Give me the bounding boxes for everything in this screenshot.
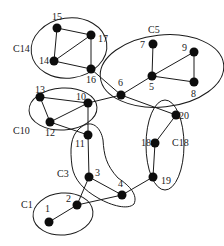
cluster-label-c5: C5 bbox=[148, 24, 160, 35]
node-label-19: 19 bbox=[161, 175, 171, 186]
node-label-12: 12 bbox=[45, 127, 55, 138]
edge-11-3 bbox=[88, 135, 89, 177]
node-9 bbox=[190, 48, 199, 57]
node-label-17: 17 bbox=[98, 33, 108, 44]
node-label-3: 3 bbox=[95, 167, 100, 178]
node-3 bbox=[85, 173, 94, 182]
node-11 bbox=[84, 131, 93, 140]
node-14 bbox=[50, 57, 59, 66]
node-2 bbox=[73, 201, 82, 210]
edge-5-9 bbox=[152, 52, 194, 76]
node-12 bbox=[46, 118, 55, 127]
edge-15-14 bbox=[54, 28, 57, 61]
cluster-label-c3: C3 bbox=[57, 168, 69, 179]
node-label-1: 1 bbox=[45, 203, 50, 214]
edge-12-10 bbox=[50, 103, 88, 122]
edge-2-1 bbox=[49, 205, 77, 222]
cluster-label-c10: C10 bbox=[13, 125, 30, 136]
edge-15-17 bbox=[57, 28, 91, 35]
cluster-label-c14: C14 bbox=[13, 43, 30, 54]
edge-4-19 bbox=[122, 177, 153, 195]
node-8 bbox=[190, 78, 199, 87]
node-label-11: 11 bbox=[75, 138, 85, 149]
node-5 bbox=[148, 72, 157, 81]
node-label-6: 6 bbox=[118, 77, 123, 88]
node-label-10: 10 bbox=[76, 91, 86, 102]
node-label-14: 14 bbox=[39, 55, 49, 66]
node-7 bbox=[149, 40, 158, 49]
cluster-label-c1: C1 bbox=[21, 199, 33, 210]
graph-diagram: 1234567891011121314151617181920 C14C5C10… bbox=[0, 0, 224, 246]
node-label-4: 4 bbox=[118, 178, 123, 189]
edge-14-16 bbox=[54, 61, 91, 69]
edge-14-17 bbox=[54, 35, 91, 61]
edge-18-19 bbox=[153, 143, 155, 177]
edge-6-20 bbox=[121, 95, 176, 115]
node-label-13: 13 bbox=[35, 84, 45, 95]
edge-7-5 bbox=[152, 44, 153, 76]
node-label-9: 9 bbox=[182, 42, 187, 53]
edge-2-4 bbox=[77, 195, 122, 205]
edge-12-11 bbox=[50, 122, 88, 135]
node-19 bbox=[149, 173, 158, 182]
node-16 bbox=[87, 65, 96, 74]
node-4 bbox=[118, 191, 127, 200]
node-label-16: 16 bbox=[86, 74, 96, 85]
edge-5-6 bbox=[121, 76, 152, 95]
node-label-7: 7 bbox=[140, 39, 145, 50]
node-1 bbox=[45, 218, 54, 227]
node-label-15: 15 bbox=[52, 11, 62, 22]
node-6 bbox=[117, 91, 126, 100]
edge-5-8 bbox=[152, 76, 194, 82]
node-18 bbox=[151, 139, 160, 148]
cluster-outlines bbox=[27, 13, 224, 238]
edge-6-10 bbox=[88, 95, 121, 103]
node-label-8: 8 bbox=[191, 88, 196, 99]
graph-node-labels: 1234567891011121314151617181920 bbox=[35, 11, 196, 214]
cluster-c14-outline bbox=[27, 13, 111, 83]
cluster-label-c18: C18 bbox=[172, 137, 189, 148]
node-label-2: 2 bbox=[66, 193, 71, 204]
node-label-18: 18 bbox=[141, 137, 151, 148]
node-label-5: 5 bbox=[149, 81, 154, 92]
node-label-20: 20 bbox=[179, 110, 189, 121]
node-15 bbox=[53, 24, 62, 33]
node-17 bbox=[87, 31, 96, 40]
